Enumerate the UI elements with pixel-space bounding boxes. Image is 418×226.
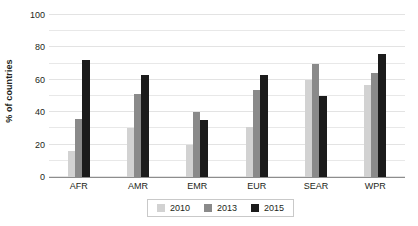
y-axis-tick-label: 60 bbox=[1, 75, 45, 84]
legend-label: 2013 bbox=[217, 204, 237, 213]
y-axis-tick-label: 40 bbox=[1, 108, 45, 117]
x-axis-line bbox=[49, 177, 405, 178]
bar-group bbox=[227, 15, 286, 177]
bar-amr-2010 bbox=[127, 128, 134, 177]
bar-sear-2015 bbox=[319, 96, 327, 177]
bar-eur-2013 bbox=[253, 90, 260, 177]
bar-group bbox=[168, 15, 227, 177]
bar-emr-2013 bbox=[193, 112, 200, 177]
bar-afr-2013 bbox=[75, 119, 82, 177]
bar-emr-2015 bbox=[200, 120, 208, 177]
legend-item-2010[interactable]: 2010 bbox=[157, 204, 190, 213]
x-axis-tick-label: EMR bbox=[168, 179, 227, 193]
legend-swatch-icon bbox=[157, 204, 165, 212]
legend-label: 2015 bbox=[264, 204, 284, 213]
bar-group bbox=[49, 15, 108, 177]
chart-legend: 201020132015 bbox=[147, 199, 294, 217]
bar-emr-2010 bbox=[186, 145, 193, 177]
legend-swatch-icon bbox=[204, 204, 212, 212]
y-axis-tick-label: 100 bbox=[1, 11, 45, 20]
legend-swatch-icon bbox=[251, 204, 259, 212]
y-axis-tick-label: 20 bbox=[1, 140, 45, 149]
bar-wpr-2010 bbox=[364, 85, 371, 177]
bar-amr-2015 bbox=[141, 75, 149, 177]
bar-group bbox=[108, 15, 167, 177]
bar-sear-2010 bbox=[305, 80, 312, 177]
bar-group bbox=[346, 15, 405, 177]
bar-afr-2010 bbox=[68, 151, 75, 177]
bar-chart-figure: % of countries 020406080100 AFRAMREMREUR… bbox=[0, 0, 418, 226]
x-axis-tick-label: SEAR bbox=[286, 179, 345, 193]
y-axis-tick-label: 0 bbox=[1, 173, 45, 182]
bar-wpr-2013 bbox=[371, 73, 378, 177]
x-axis-tick-label: EUR bbox=[227, 179, 286, 193]
bar-sear-2013 bbox=[312, 64, 319, 177]
x-axis-ticks: AFRAMREMREURSEARWPR bbox=[49, 179, 405, 195]
bar-eur-2015 bbox=[260, 75, 268, 177]
bar-group bbox=[286, 15, 345, 177]
bar-eur-2010 bbox=[246, 127, 253, 177]
bar-wpr-2015 bbox=[378, 54, 386, 177]
legend-item-2013[interactable]: 2013 bbox=[204, 204, 237, 213]
x-axis-tick-label: WPR bbox=[346, 179, 405, 193]
bar-amr-2013 bbox=[134, 94, 141, 177]
bars-layer bbox=[49, 15, 405, 177]
y-axis-tick-label: 80 bbox=[1, 43, 45, 52]
x-axis-tick-label: AMR bbox=[108, 179, 167, 193]
x-axis-tick-label: AFR bbox=[49, 179, 108, 193]
legend-item-2015[interactable]: 2015 bbox=[251, 204, 284, 213]
y-axis-ticks: 020406080100 bbox=[0, 0, 45, 226]
legend-label: 2010 bbox=[170, 204, 190, 213]
bar-afr-2015 bbox=[82, 60, 90, 177]
